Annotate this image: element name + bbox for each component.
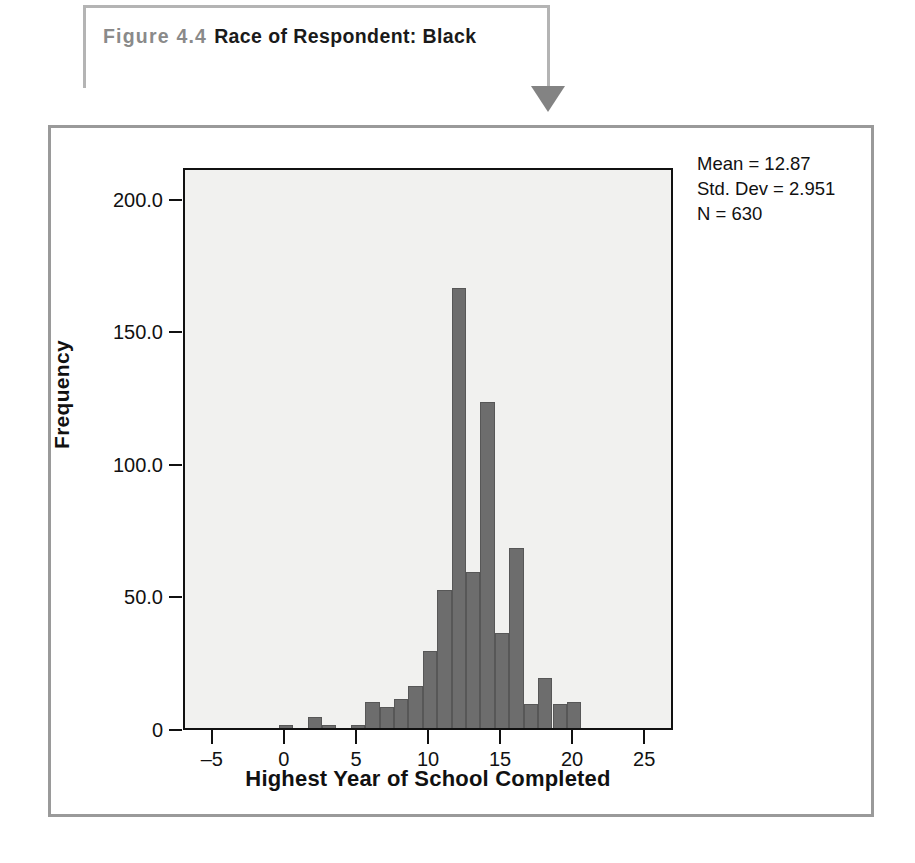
histogram-bar	[466, 572, 480, 728]
bars-container	[185, 170, 671, 728]
figure-caption-text: Race of Respondent: Black	[214, 25, 476, 47]
histogram-bar	[408, 686, 422, 728]
histogram-bar	[279, 725, 293, 728]
down-triangle-arrow-icon	[531, 86, 565, 112]
y-axis-tick-mark	[169, 331, 182, 333]
y-axis-tick-label: 100.0	[63, 453, 163, 476]
histogram-bar	[538, 678, 552, 728]
y-axis-tick-mark	[169, 464, 182, 466]
x-axis-tick-label: 25	[633, 748, 655, 771]
histogram-bar	[423, 651, 437, 728]
y-axis-tick-label: 0	[63, 719, 163, 742]
x-axis-tick-label: 10	[417, 748, 439, 771]
x-axis-tick-mark	[499, 730, 501, 744]
histogram-bar	[480, 402, 494, 728]
stat-n: N = 630	[697, 202, 835, 227]
x-axis-tick-mark	[355, 730, 357, 744]
stat-std-dev: Std. Dev = 2.951	[697, 177, 835, 202]
y-axis-tick-mark	[169, 199, 182, 201]
y-axis-tick-label: 150.0	[63, 321, 163, 344]
statistics-annotation: Mean = 12.87 Std. Dev = 2.951 N = 630	[697, 152, 835, 226]
x-axis-tick-mark	[643, 730, 645, 744]
histogram-bar	[308, 717, 322, 728]
y-axis-tick-mark	[169, 729, 182, 731]
x-axis-tick-mark	[427, 730, 429, 744]
y-axis-tick-label: 50.0	[63, 586, 163, 609]
figure-number: Figure 4.4	[103, 25, 207, 47]
histogram-bar	[553, 704, 567, 728]
histogram-bar	[452, 288, 466, 728]
histogram-bar	[351, 725, 365, 728]
histogram-bar	[524, 704, 538, 728]
x-axis-tick-label: 15	[489, 748, 511, 771]
histogram-bar	[394, 699, 408, 728]
y-axis-tick-mark	[169, 596, 182, 598]
histogram-bar	[437, 590, 451, 728]
x-axis-tick-mark	[211, 730, 213, 744]
histogram-bar	[567, 702, 581, 729]
x-axis-tick-mark	[571, 730, 573, 744]
histogram-bar	[495, 633, 509, 728]
x-axis-tick-label: 0	[278, 748, 289, 771]
figure-caption: Figure 4.4Race of Respondent: Black	[103, 22, 523, 50]
x-axis-tick-label: –5	[201, 748, 223, 771]
x-axis-tick-label: 20	[561, 748, 583, 771]
x-axis-tick-label: 5	[350, 748, 361, 771]
stat-mean: Mean = 12.87	[697, 152, 835, 177]
histogram-bar	[380, 707, 394, 728]
histogram-plot-area	[183, 168, 673, 730]
histogram-bar	[365, 702, 379, 729]
histogram-bar	[509, 548, 523, 728]
histogram-bar	[322, 725, 336, 728]
y-axis-title: Frequency	[50, 340, 74, 449]
x-axis-tick-mark	[283, 730, 285, 744]
y-axis-tick-label: 200.0	[63, 188, 163, 211]
